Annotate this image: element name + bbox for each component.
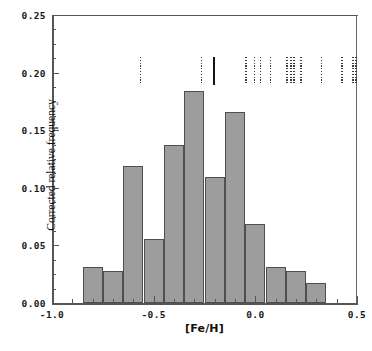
x-axis-minor-tick	[316, 299, 317, 303]
x-axis-minor-tick	[276, 299, 277, 303]
x-axis-tick-label: -0.5	[141, 309, 165, 320]
x-axis-minor-tick	[194, 299, 195, 303]
x-axis-title: [Fe/H]	[52, 322, 357, 335]
histogram-figure: -1.0-0.50.00.5 0.000.050.100.150.200.25 …	[0, 0, 372, 351]
x-axis-minor-tick	[133, 299, 134, 303]
y-axis-tick-label: 0.20	[22, 67, 46, 78]
x-axis-tick-label: -1.0	[40, 309, 64, 320]
y-axis-tick-label: 0.00	[22, 298, 46, 309]
x-axis-minor-tick	[174, 299, 175, 303]
x-axis-minor-tick	[113, 299, 114, 303]
y-axis-major-tick	[52, 15, 59, 16]
x-axis-major-tick	[52, 296, 53, 303]
x-axis-minor-tick	[72, 299, 73, 303]
y-axis-tick-label: 0.15	[22, 125, 46, 136]
x-axis-minor-tick	[215, 299, 216, 303]
x-axis-major-tick	[357, 296, 358, 303]
y-axis-tick-label: 0.10	[22, 182, 46, 193]
y-axis-title: Corrected relative frequency	[45, 40, 57, 290]
plot-frame-bottom-edge	[52, 303, 358, 305]
x-axis-tick-label: 0.5	[348, 309, 366, 320]
x-axis-minor-tick	[296, 299, 297, 303]
x-axis-minor-tick	[93, 299, 94, 303]
y-axis-tick-label: 0.05	[22, 240, 46, 251]
y-axis-minor-tick	[52, 29, 56, 30]
x-axis-minor-tick	[337, 299, 338, 303]
x-axis-minor-tick	[235, 299, 236, 303]
y-axis-tick-label: 0.25	[22, 10, 46, 21]
y-axis-major-tick	[52, 303, 59, 304]
x-axis-major-tick	[255, 296, 256, 303]
axis-ticks-layer	[52, 15, 357, 303]
x-axis-tick-label: 0.0	[246, 309, 264, 320]
x-axis-major-tick	[154, 296, 155, 303]
